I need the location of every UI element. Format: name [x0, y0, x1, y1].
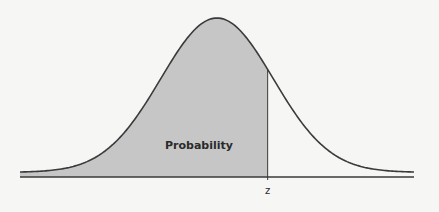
normal-distribution-chart: Probability z: [0, 0, 439, 212]
shaded-probability-area: [20, 18, 268, 177]
z-label: z: [265, 185, 270, 196]
probability-label: Probability: [165, 139, 233, 152]
